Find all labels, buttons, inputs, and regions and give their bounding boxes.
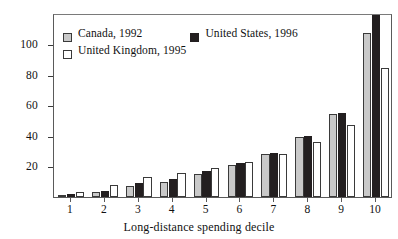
bar-united-kingdom (381, 68, 389, 197)
legend-row: United Kingdom, 1995 (63, 44, 383, 61)
x-tick-label: 6 (224, 203, 254, 215)
x-tick-mark (104, 198, 105, 202)
x-tick-mark (341, 198, 342, 202)
x-tick-mark (239, 198, 240, 202)
bar-canada (295, 137, 303, 197)
x-tick-label: 3 (123, 203, 153, 215)
bar-united-states (135, 183, 143, 197)
bar-united-kingdom (76, 192, 84, 197)
legend-row: Canada, 1992United States, 1996 (63, 27, 383, 44)
bar-canada (92, 192, 100, 197)
legend-label: United States, 1996 (205, 27, 297, 40)
bar-canada (261, 154, 269, 197)
canada-swatch (63, 33, 72, 42)
bar-canada (126, 186, 134, 197)
legend: Canada, 1992United States, 1996United Ki… (63, 27, 383, 61)
x-tick-mark (273, 198, 274, 202)
bar-united-kingdom (313, 142, 321, 197)
x-tick-mark (307, 198, 308, 202)
x-tick-mark (138, 198, 139, 202)
x-tick-mark (172, 198, 173, 202)
x-tick-label: 9 (326, 203, 356, 215)
bar-canada (58, 195, 66, 197)
x-tick-label: 10 (360, 203, 390, 215)
bar-canada (228, 165, 236, 197)
legend-label: Canada, 1992 (78, 27, 142, 40)
bar-united-kingdom (347, 125, 355, 197)
united-kingdom-swatch (63, 50, 72, 59)
legend-item[interactable]: United States, 1996 (190, 27, 297, 45)
x-axis-title: Long-distance spending decile (0, 220, 398, 234)
legend-item[interactable]: Canada, 1992 (63, 27, 142, 45)
x-tick-label: 5 (191, 203, 221, 215)
bar-united-states (169, 179, 177, 197)
bar-chart: 20406080100 Canada, 1992United States, 1… (0, 0, 398, 239)
x-tick-label: 2 (89, 203, 119, 215)
bar-united-kingdom (143, 177, 151, 197)
x-tick-label: 1 (55, 203, 85, 215)
united-states-swatch (190, 33, 199, 42)
x-tick-mark (70, 198, 71, 202)
x-tick-mark (206, 198, 207, 202)
bar-united-kingdom (110, 185, 118, 197)
bar-united-states (236, 163, 244, 197)
x-tick-label: 7 (258, 203, 288, 215)
y-tick-mark (48, 137, 53, 138)
bar-united-states (338, 113, 346, 197)
bar-united-kingdom (245, 162, 253, 197)
y-tick-mark (48, 76, 53, 77)
bar-canada (194, 174, 202, 197)
bar-united-kingdom (211, 168, 219, 197)
y-tick-mark (48, 106, 53, 107)
bar-canada (329, 114, 337, 197)
y-axis: 20406080100 (0, 0, 46, 239)
bar-united-states (304, 136, 312, 197)
bar-united-states (101, 191, 109, 197)
legend-item[interactable]: United Kingdom, 1995 (63, 44, 186, 62)
bar-united-kingdom (279, 154, 287, 197)
bar-canada (160, 182, 168, 197)
x-tick-label: 4 (157, 203, 187, 215)
y-tick-label: 40 (26, 131, 38, 143)
legend-label: United Kingdom, 1995 (78, 44, 186, 57)
y-tick-label: 60 (26, 100, 38, 112)
x-tick-mark (375, 198, 376, 202)
bar-united-states (202, 171, 210, 197)
bar-united-states (67, 194, 75, 197)
bar-united-kingdom (177, 173, 185, 197)
y-tick-label: 80 (26, 70, 38, 82)
x-tick-label: 8 (292, 203, 322, 215)
bar-united-states (270, 153, 278, 197)
y-tick-label: 20 (26, 161, 38, 173)
plot-area: Canada, 1992United States, 1996United Ki… (53, 14, 392, 198)
y-tick-mark (48, 45, 53, 46)
y-tick-mark (48, 167, 53, 168)
y-tick-label: 100 (20, 39, 38, 51)
